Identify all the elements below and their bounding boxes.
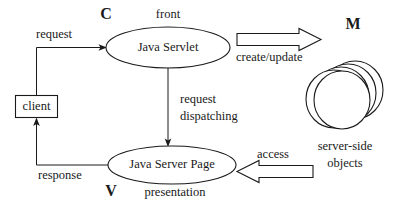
request-edge-label: request [36, 27, 73, 41]
access-label: access [257, 147, 289, 161]
server-side-objects-caption-line1: server-side [318, 139, 373, 153]
server-side-objects-node[interactable] [314, 71, 370, 129]
jsp-role-label: presentation [144, 185, 206, 199]
java-servlet-label: Java Servlet [138, 40, 199, 54]
request-edge-line [37, 48, 102, 96]
view-letter: V [105, 182, 117, 199]
response-edge-label: response [38, 168, 82, 182]
request-dispatching-label-line2: dispatching [180, 109, 238, 123]
access-block-arrow[interactable] [237, 161, 313, 183]
server-side-objects-caption-line2: objects [327, 156, 363, 170]
create-update-block-arrow[interactable] [237, 29, 321, 51]
create-update-label: create/update [236, 50, 303, 64]
model-letter: M [345, 15, 360, 32]
java-server-page-label: Java Server Page [129, 157, 215, 171]
diagram-canvas: client request Java Servlet C front requ… [0, 0, 404, 215]
controller-letter: C [100, 5, 112, 22]
response-edge-line [37, 124, 109, 166]
servlet-role-label: front [156, 7, 181, 21]
mvc-architecture-diagram: client request Java Servlet C front requ… [0, 0, 404, 215]
client-label: client [23, 99, 51, 113]
request-dispatching-label-line1: request [180, 92, 217, 106]
